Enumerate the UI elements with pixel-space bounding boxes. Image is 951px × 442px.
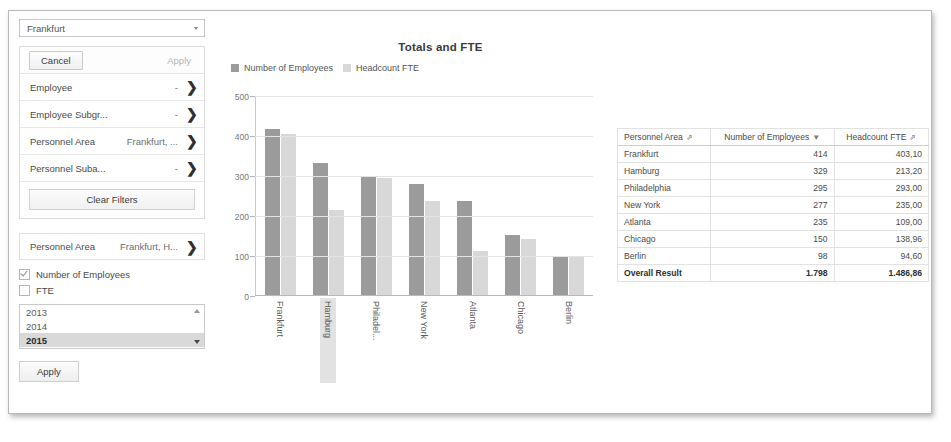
table-header-row: Personnel Area⇗ Number of Employees▼ Hea… [618, 129, 929, 146]
chevron-right-icon[interactable]: ❯ [185, 134, 198, 148]
column-header-number-of-employees[interactable]: Number of Employees▼ [710, 129, 834, 146]
results-table: Personnel Area⇗ Number of Employees▼ Hea… [617, 128, 929, 282]
legend-item-employees[interactable]: Number of Employees [231, 63, 333, 73]
x-axis-label[interactable]: Philadel... [368, 298, 384, 383]
gridline [255, 96, 593, 97]
legend-swatch [231, 64, 239, 72]
table-total-cell: 1.486,86 [834, 265, 928, 282]
filter-row-employee-subgroup[interactable]: Employee Subgr... - ❯ [20, 100, 204, 127]
column-header-headcount-fte[interactable]: Headcount FTE⇗ [834, 129, 928, 146]
chevron-right-icon[interactable]: ❯ [185, 80, 198, 94]
x-label-cell: Berlin [545, 298, 593, 383]
y-tick-label: 0 [223, 292, 249, 302]
y-tick-label: 500 [223, 92, 249, 102]
bar-group[interactable] [400, 184, 448, 295]
filter-row-personnel-area[interactable]: Personnel Area Frankfurt, ... ❯ [20, 127, 204, 154]
personnel-area-dropdown[interactable]: Frankfurt [19, 19, 205, 37]
filter-value: Frankfurt, ... [95, 136, 185, 147]
bar[interactable] [505, 235, 520, 295]
checkbox-number-of-employees[interactable]: Number of Employees [19, 269, 205, 280]
bar-group[interactable] [352, 177, 400, 295]
filter-label: Personnel Area [30, 136, 95, 147]
sort-icon[interactable]: ⇗ [686, 133, 693, 142]
clear-filters-row: Clear Filters [20, 181, 204, 218]
table-row[interactable]: Frankfurt414403,10 [618, 146, 929, 163]
bar-chart: Totals and FTE Number of Employees Headc… [223, 41, 603, 391]
sort-icon[interactable]: ⇗ [909, 133, 916, 142]
bar[interactable] [329, 210, 344, 295]
x-axis-label[interactable]: Frankfurt [272, 298, 288, 383]
bar-group[interactable] [256, 129, 304, 295]
clear-filters-button[interactable]: Clear Filters [29, 189, 195, 210]
bar[interactable] [569, 257, 584, 295]
table-row[interactable]: Philadelphia295293,00 [618, 180, 929, 197]
checkbox-unchecked-icon[interactable] [19, 285, 30, 296]
table-cell: Atlanta [618, 214, 711, 231]
table-cell: Philadelphia [618, 180, 711, 197]
table-cell: 150 [710, 231, 834, 248]
y-tick [250, 256, 255, 257]
year-option-2013[interactable]: 2013 [20, 305, 204, 319]
x-label-cell: Hamburg [304, 298, 352, 383]
personnel-area-row[interactable]: Personnel Area Frankfurt, H... ❯ [20, 234, 204, 259]
chevron-right-icon[interactable]: ❯ [185, 240, 198, 254]
x-axis-label[interactable]: Chicago [513, 298, 529, 383]
bar[interactable] [473, 251, 488, 295]
filter-label: Employee Subgr... [30, 109, 108, 120]
apply-filters-button[interactable]: Apply [19, 361, 79, 382]
chevron-right-icon[interactable]: ❯ [185, 107, 198, 121]
x-axis-label[interactable]: Atlanta [465, 298, 481, 383]
scroll-up-icon[interactable] [194, 309, 200, 313]
scroll-down-icon[interactable] [194, 340, 200, 344]
checkbox-fte[interactable]: FTE [19, 285, 205, 296]
filter-row-personnel-subarea[interactable]: Personnel Suba... - ❯ [20, 154, 204, 181]
year-option-2015[interactable]: 2015 [20, 333, 204, 347]
bar[interactable] [521, 239, 536, 295]
table-row[interactable]: New York277235,00 [618, 197, 929, 214]
bar[interactable] [361, 177, 376, 295]
chevron-down-icon [194, 27, 198, 30]
y-tick-label: 200 [223, 212, 249, 222]
apply-button[interactable]: Apply [156, 52, 195, 69]
gridline [255, 176, 593, 177]
chevron-right-icon[interactable]: ❯ [185, 161, 198, 175]
checkbox-label: FTE [36, 285, 54, 296]
x-axis-label[interactable]: Hamburg [320, 298, 336, 383]
table-total-cell: Overall Result [618, 265, 711, 282]
bar-group[interactable] [497, 235, 545, 295]
bar-group[interactable] [545, 256, 593, 295]
table-cell: Chicago [618, 231, 711, 248]
table-row[interactable]: Chicago150138,96 [618, 231, 929, 248]
table-row[interactable]: Atlanta235109,00 [618, 214, 929, 231]
table-cell: New York [618, 197, 711, 214]
bar[interactable] [409, 184, 424, 295]
column-header-personnel-area[interactable]: Personnel Area⇗ [618, 129, 711, 146]
cancel-button[interactable]: Cancel [29, 51, 83, 70]
filter-row-employee[interactable]: Employee - ❯ [20, 73, 204, 100]
bar-group[interactable] [304, 163, 352, 295]
filter-down-icon[interactable]: ▼ [812, 133, 820, 142]
bar[interactable] [553, 256, 568, 295]
application-window: Frankfurt Cancel Apply Employee - ❯ Empl… [8, 10, 932, 414]
personnel-area-selector[interactable]: Personnel Area Frankfurt, H... ❯ [19, 233, 205, 260]
y-tick-label: 300 [223, 172, 249, 182]
x-axis-label[interactable]: Berlin [561, 298, 577, 383]
table-cell: 109,00 [834, 214, 928, 231]
x-axis-label[interactable]: New York [416, 298, 432, 383]
table-row[interactable]: Berlin9894,60 [618, 248, 929, 265]
checkbox-checked-icon[interactable] [19, 269, 30, 280]
legend-item-fte[interactable]: Headcount FTE [343, 63, 419, 73]
bar[interactable] [281, 134, 296, 295]
y-tick [250, 136, 255, 137]
legend-label: Headcount FTE [356, 63, 419, 73]
year-listbox[interactable]: 2013 2014 2015 [19, 304, 205, 349]
gridline [255, 216, 593, 217]
bar[interactable] [377, 178, 392, 295]
bar[interactable] [313, 163, 328, 295]
personnel-area-label: Personnel Area [30, 241, 95, 252]
panel-button-row: Cancel Apply [20, 47, 204, 73]
year-option-2014[interactable]: 2014 [20, 319, 204, 333]
table-row[interactable]: Hamburg329213,20 [618, 163, 929, 180]
bar[interactable] [265, 129, 280, 295]
filter-value: - [72, 82, 185, 93]
